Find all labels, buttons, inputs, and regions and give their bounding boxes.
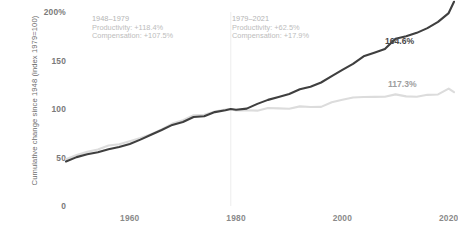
- x-axis-tick-2000: 2000: [333, 213, 352, 223]
- annotation-era-1948-1979: 1948–1979 Productivity: +118.4% Compensa…: [92, 15, 173, 41]
- x-axis-tick-2020: 2020: [439, 213, 458, 223]
- annotation-era-1979-2021-compensation: Compensation: +17.9%: [232, 32, 309, 41]
- end-label-compensation: 117.3%: [388, 79, 417, 89]
- end-label-productivity: 164.6%: [385, 36, 414, 46]
- annotation-era-1979-2021: 1979–2021 Productivity: +62.5% Compensat…: [232, 15, 309, 41]
- series-line-compensation: [66, 89, 454, 160]
- annotation-era-1948-1979-compensation: Compensation: +107.5%: [92, 32, 173, 41]
- x-axis-tick-1960: 1960: [120, 213, 139, 223]
- x-axis-tick-1980: 1980: [226, 213, 245, 223]
